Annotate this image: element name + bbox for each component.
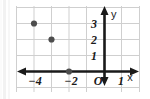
x-tick-label-minus-4: −4 [28,74,41,88]
origin-label: O [94,74,103,88]
scan-artifact-band-inner [8,0,10,99]
graph-svg: 3 2 1 −4 −2 1 O y x [16,6,140,92]
figure-canvas: 3 2 1 −4 −2 1 O y x [0,0,150,99]
y-tick-label-3: 3 [90,17,97,31]
y-axis-letter: y [111,8,117,20]
x-tick-label-1: 1 [118,74,124,88]
data-point [48,36,54,42]
x-axis-arrow-left [17,68,26,76]
data-point [31,20,37,26]
scan-artifact-band-outer [0,0,2,99]
x-tick-label-minus-2: −2 [64,74,77,88]
y-tick-label-1: 1 [91,49,97,63]
scan-artifact-band-left [3,0,6,99]
x-axis-letter: x [127,71,133,83]
coordinate-plane: 3 2 1 −4 −2 1 O y x [16,6,140,92]
y-tick-label-2: 2 [90,33,97,47]
